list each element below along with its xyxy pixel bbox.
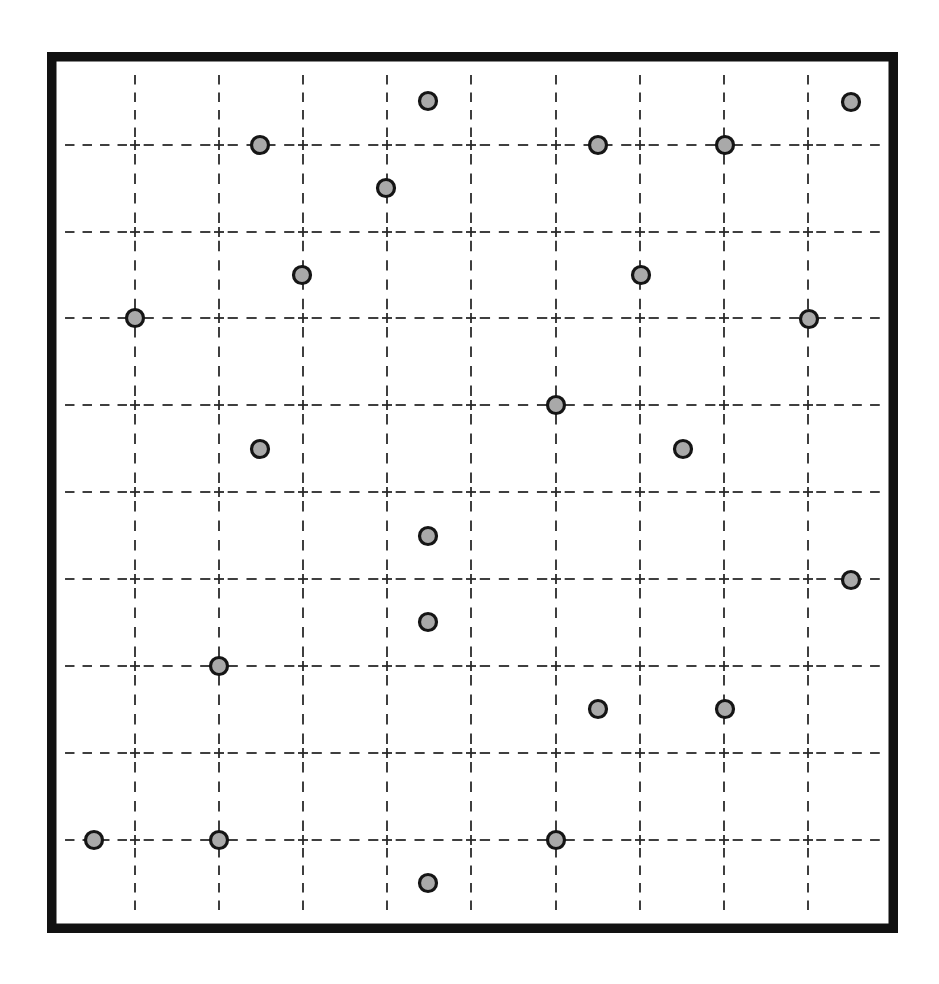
gray-dot-marker <box>252 137 269 154</box>
gray-dot-marker <box>843 94 860 111</box>
gray-dot-marker <box>590 701 607 718</box>
gray-dot-marker <box>294 267 311 284</box>
gray-dot-marker <box>548 832 565 849</box>
gray-dot-marker <box>633 267 650 284</box>
gray-dot-marker <box>420 528 437 545</box>
gray-dot-marker <box>717 701 734 718</box>
gray-dot-marker <box>86 832 103 849</box>
gray-dot-marker <box>127 310 144 327</box>
gray-dot-marker <box>420 93 437 110</box>
dot-grid-diagram <box>0 0 939 984</box>
gray-dot-marker <box>801 311 818 328</box>
gray-dot-marker <box>717 137 734 154</box>
gray-dot-marker <box>420 614 437 631</box>
gray-dot-marker <box>590 137 607 154</box>
gray-dot-marker <box>211 832 228 849</box>
gray-dot-marker <box>843 572 860 589</box>
gray-dot-marker <box>378 180 395 197</box>
gray-dot-marker <box>548 397 565 414</box>
gray-dot-marker <box>211 658 228 675</box>
gray-dot-marker <box>675 441 692 458</box>
gray-dot-marker <box>252 441 269 458</box>
gray-dot-marker <box>420 875 437 892</box>
